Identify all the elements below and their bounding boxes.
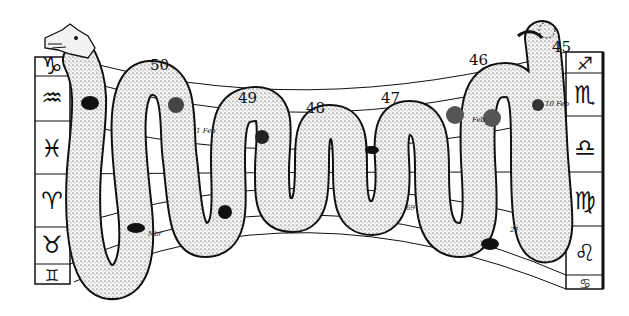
sign-leo: ♌	[574, 239, 596, 267]
right-zodiac-column: ♐ ♏ ♎ ♍ ♌ ♋	[566, 52, 603, 291]
sign-scorpio: ♏	[574, 81, 596, 109]
annotation-feb-left: 1 Feb	[196, 127, 216, 135]
coil-number-49: 49	[238, 89, 257, 107]
sign-virgo: ♍	[574, 187, 596, 215]
coil-number-50: 50	[150, 56, 169, 74]
annotation-cancer-mark: 69	[406, 204, 415, 212]
sign-aries: ♈	[41, 187, 63, 215]
coil-number-45: 45	[552, 38, 571, 56]
sign-gemini: ♊	[45, 266, 59, 285]
coil-number-48: 48	[306, 99, 325, 117]
sign-sagittarius: ♐	[577, 53, 593, 74]
annotation-nbr: Nbr	[147, 230, 163, 238]
engraving-canvas: ♑ ♒ ♓ ♈ ♉ ♊ ♐ ♏ ♎ ♍ ♌ ♋	[0, 0, 629, 316]
annotation-feb-mid: Feb	[471, 116, 486, 124]
annotation-leo-mark: 21	[509, 226, 519, 234]
sign-pisces: ♓	[41, 135, 63, 163]
annotation-feb-right: 10 Feb	[545, 100, 570, 108]
coil-number-46: 46	[469, 51, 488, 69]
sign-capricorn: ♑	[41, 52, 63, 80]
serpent-zodiac-engraving: ♑ ♒ ♓ ♈ ♉ ♊ ♐ ♏ ♎ ♍ ♌ ♋	[0, 0, 629, 316]
sign-libra: ♎	[574, 134, 596, 162]
sign-cancer: ♋	[579, 276, 591, 291]
sign-aquarius: ♒	[41, 84, 63, 112]
coil-number-47: 47	[381, 89, 400, 107]
sign-taurus: ♉	[41, 231, 63, 259]
